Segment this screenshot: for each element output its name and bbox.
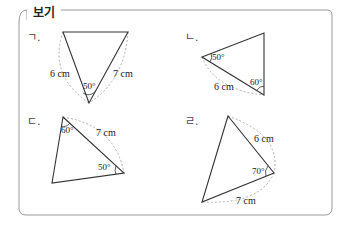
figure-canvas: 6 cm 7 cm 50° 50° 60° 6 cm 60° 7 cm 50° … xyxy=(0,0,350,226)
item-label-a: ㄱ. xyxy=(27,28,41,44)
angle-label: 50° xyxy=(83,81,96,91)
side-label: 7 cm xyxy=(236,195,256,206)
box-title: 보기 xyxy=(27,5,61,21)
item-label-c: ㄷ. xyxy=(27,112,41,128)
side-label: 7 cm xyxy=(113,68,133,79)
item-label-b: ㄴ. xyxy=(185,28,199,44)
angle-label: 60° xyxy=(250,77,263,87)
side-label: 6 cm xyxy=(254,133,274,144)
example-box: 6 cm 7 cm 50° 50° 60° 6 cm 60° 7 cm 50° … xyxy=(0,0,350,226)
item-label-d: ㄹ. xyxy=(185,112,199,128)
triangle-d xyxy=(202,116,275,202)
side-label: 6 cm xyxy=(214,81,234,92)
side-label: 7 cm xyxy=(96,127,116,138)
angle-label: 50° xyxy=(98,162,111,172)
side-label: 6 cm xyxy=(50,68,70,79)
angle-label: 60° xyxy=(61,125,74,135)
angle-label: 70° xyxy=(252,166,265,176)
angle-label: 50° xyxy=(212,52,225,62)
